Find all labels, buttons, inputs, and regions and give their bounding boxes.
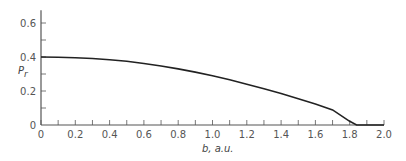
x-tick-label: 1.0 [205,129,221,140]
x-tick-label: 0 [38,129,44,140]
x-tick-label: 2.0 [376,129,392,140]
chart: 00.20.40.60.81.01.21.41.61.82.0 00.20.40… [0,0,406,161]
x-tick-label: 1.4 [273,129,289,140]
y-tick-label: 0 [30,120,36,131]
y-axis-label-sub: r [24,69,29,79]
x-tick-label: 0.4 [102,129,118,140]
y-axis-label: Pr [18,65,29,79]
x-tick-label: 0.6 [136,129,152,140]
x-tick-label: 0.2 [67,129,83,140]
axes [41,10,384,125]
y-tick-label: 0.4 [20,52,36,63]
x-tick-label: 1.6 [307,129,323,140]
x-tick-label: 1.8 [342,129,358,140]
data-curve [41,57,384,125]
x-tick-label: 0.8 [170,129,186,140]
y-tick-label: 0.6 [20,18,36,29]
x-axis-label: b, a.u. [202,143,234,154]
x-tick-label: 1.2 [239,129,255,140]
x-axis-ticks: 00.20.40.60.81.01.21.41.61.82.0 [38,120,392,140]
y-tick-label: 0.2 [20,86,36,97]
